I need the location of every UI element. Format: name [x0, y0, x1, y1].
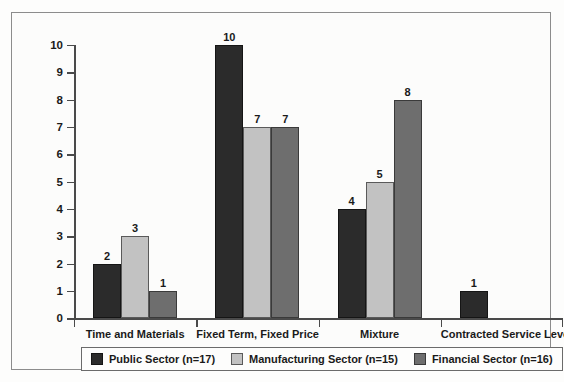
- category-label: Mixture: [319, 328, 441, 340]
- plot-area: 012345678910 231Time and Materials1077Fi…: [74, 45, 563, 320]
- bar-value-label: 10: [223, 32, 235, 43]
- y-tick-label: 10: [50, 39, 63, 51]
- y-tick-mark: [67, 236, 74, 237]
- bar[interactable]: 8: [394, 100, 422, 319]
- chart-frame: 012345678910 231Time and Materials1077Fi…: [11, 12, 551, 370]
- bar-value-label: 4: [349, 196, 355, 207]
- bar-group: 1Contracted Service Level: [441, 45, 563, 318]
- category-label: Contracted Service Level: [441, 328, 563, 340]
- bar-value-label: 8: [405, 87, 411, 98]
- bar[interactable]: 5: [366, 182, 394, 319]
- y-tick-mark: [67, 291, 74, 292]
- bar[interactable]: 7: [243, 127, 271, 318]
- y-tick-mark: [67, 127, 74, 128]
- y-tick-mark: [67, 72, 74, 73]
- y-tick-label: 8: [57, 94, 63, 106]
- y-tick-label: 6: [57, 148, 63, 160]
- bar-value-label: 2: [104, 251, 110, 262]
- legend-swatch-icon: [414, 353, 426, 365]
- legend-item[interactable]: Manufacturing Sector (n=15): [231, 353, 398, 365]
- category-label: Fixed Term, Fixed Price: [196, 328, 318, 340]
- y-tick-mark: [67, 100, 74, 101]
- bar[interactable]: 7: [271, 127, 299, 318]
- y-tick-label: 9: [57, 66, 63, 78]
- bar[interactable]: 10: [215, 45, 243, 318]
- bars: 1: [460, 45, 544, 318]
- bar[interactable]: 3: [121, 236, 149, 318]
- legend-label: Public Sector (n=17): [109, 353, 215, 365]
- y-tick-mark: [67, 318, 74, 319]
- x-tick-mark: [441, 320, 442, 327]
- y-tick-label: 3: [57, 230, 63, 242]
- y-tick-mark: [67, 154, 74, 155]
- bars: 458: [338, 45, 422, 318]
- y-tick-label: 0: [57, 312, 63, 324]
- y-tick-label: 2: [57, 258, 63, 270]
- y-tick-mark: [67, 209, 74, 210]
- legend-item[interactable]: Financial Sector (n=16): [414, 353, 553, 365]
- y-tick-mark: [67, 264, 74, 265]
- bar[interactable]: 1: [149, 291, 177, 318]
- x-tick-mark: [562, 320, 563, 327]
- legend-item[interactable]: Public Sector (n=17): [91, 353, 215, 365]
- bar-group: 1077Fixed Term, Fixed Price: [196, 45, 318, 318]
- bar-value-label: 1: [471, 278, 477, 289]
- bars: 1077: [215, 45, 299, 318]
- y-tick-label: 7: [57, 121, 63, 133]
- bar-value-label: 1: [160, 278, 166, 289]
- bar-group: 458Mixture: [319, 45, 441, 318]
- bar-group: 231Time and Materials: [74, 45, 196, 318]
- legend-label: Manufacturing Sector (n=15): [249, 353, 398, 365]
- category-label: Time and Materials: [74, 328, 196, 340]
- legend-label: Financial Sector (n=16): [432, 353, 553, 365]
- bar-value-label: 7: [254, 114, 260, 125]
- y-tick-label: 5: [57, 176, 63, 188]
- bar-value-label: 7: [282, 114, 288, 125]
- x-tick-mark: [74, 320, 75, 327]
- chart-legend: Public Sector (n=17)Manufacturing Sector…: [81, 347, 563, 371]
- bar-value-label: 5: [377, 169, 383, 180]
- bar[interactable]: 2: [93, 264, 121, 319]
- bar[interactable]: 4: [338, 209, 366, 318]
- bar[interactable]: 1: [460, 291, 488, 318]
- chart-page: 012345678910 231Time and Materials1077Fi…: [0, 0, 564, 382]
- y-tick-label: 4: [57, 203, 63, 215]
- bar-value-label: 3: [132, 223, 138, 234]
- y-tick-mark: [67, 45, 74, 46]
- y-tick-label: 1: [57, 285, 63, 297]
- legend-swatch-icon: [91, 353, 103, 365]
- bars: 231: [93, 45, 177, 318]
- legend-swatch-icon: [231, 353, 243, 365]
- x-tick-mark: [196, 320, 197, 327]
- y-tick-mark: [67, 182, 74, 183]
- x-tick-mark: [319, 320, 320, 327]
